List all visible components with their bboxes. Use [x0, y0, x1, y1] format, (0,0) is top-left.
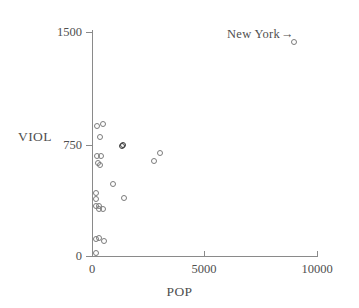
data-point — [93, 190, 99, 196]
x-axis-title: POP — [0, 285, 359, 299]
data-point — [97, 134, 103, 140]
y-axis-tick-750 — [86, 145, 92, 146]
y-axis-tick-label-1500: 1500 — [30, 26, 82, 39]
data-point — [100, 121, 106, 127]
data-point — [93, 250, 99, 256]
data-point — [120, 142, 126, 148]
x-axis-tick-label-10000: 10000 — [287, 263, 347, 276]
y-axis-line — [92, 30, 93, 257]
data-point — [93, 196, 99, 202]
annotation-new-york: New York→ — [227, 28, 294, 41]
y-axis-tick-1500 — [86, 32, 92, 33]
x-axis-tick-10000 — [317, 251, 318, 257]
y-axis-tick-label-0: 0 — [30, 250, 82, 263]
x-axis-tick-5000 — [204, 251, 205, 257]
x-axis-tick-label-5000: 5000 — [174, 263, 234, 276]
data-point — [101, 238, 107, 244]
data-point — [100, 206, 106, 212]
data-point — [121, 195, 127, 201]
x-axis-tick-label-0: 0 — [62, 263, 122, 276]
data-point — [98, 153, 104, 159]
data-point — [110, 181, 116, 187]
data-point — [94, 123, 100, 129]
data-point-new-york — [291, 39, 297, 45]
scatter-plot-figure: 1500 750 0 0 5000 10000 VIOL POP New Yor… — [0, 0, 359, 308]
data-point — [97, 162, 103, 168]
data-point — [151, 158, 157, 164]
annotation-new-york-label: New York — [227, 27, 280, 41]
data-point — [157, 150, 163, 156]
x-axis-line — [92, 256, 318, 257]
y-axis-title: VIOL — [18, 130, 52, 144]
